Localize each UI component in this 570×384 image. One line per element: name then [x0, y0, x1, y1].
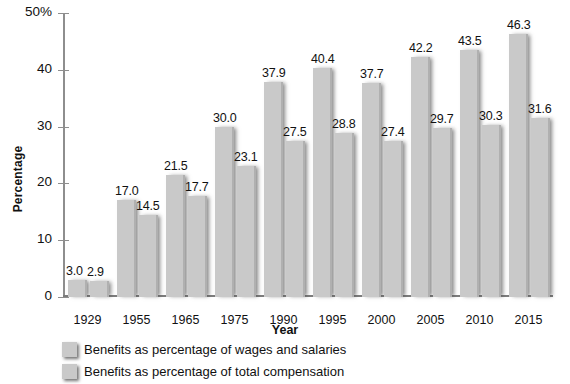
- bar-chart: Percentage Year 01020304050% 3.02.919291…: [0, 0, 570, 384]
- bar-group: 37.727.4: [362, 13, 403, 297]
- bar-value-label: 17.7: [185, 180, 209, 194]
- bar-value-label: 29.7: [430, 112, 454, 126]
- bar-value-label: 21.5: [164, 159, 188, 173]
- bar-value-label: 43.5: [458, 34, 482, 48]
- bar-group: 30.023.1: [215, 13, 256, 297]
- bar-2000-series-2[interactable]: [384, 141, 403, 297]
- legend-label-series-1: Benefits as percentage of wages and sala…: [84, 342, 346, 357]
- bar-value-label: 42.2: [409, 41, 433, 55]
- bar-group: 42.229.7: [411, 13, 452, 297]
- bar-value-label: 30.3: [479, 109, 503, 123]
- bar-2010-series-1[interactable]: [460, 50, 479, 297]
- bar-2005-series-2[interactable]: [433, 128, 452, 297]
- bar-1965-series-2[interactable]: [188, 196, 207, 297]
- bar-value-label: 27.4: [381, 125, 405, 139]
- legend-item: Benefits as percentage of total compensa…: [62, 360, 346, 382]
- bar-group: 40.428.8: [313, 13, 354, 297]
- y-tick-label: 30: [37, 118, 52, 133]
- bar-group: 3.02.9: [68, 13, 109, 297]
- bar-value-label: 27.5: [283, 125, 307, 139]
- y-tick-label: 50%: [25, 4, 52, 19]
- bar-1990-series-1[interactable]: [264, 82, 283, 297]
- legend-swatch-series-1: [62, 342, 77, 357]
- y-tick-label: 0: [44, 288, 52, 303]
- legend-swatch-series-2: [62, 364, 77, 379]
- y-tick: [58, 297, 69, 298]
- bar-value-label: 23.1: [234, 150, 258, 164]
- bar-value-label: 28.8: [332, 117, 356, 131]
- bar-value-label: 40.4: [311, 52, 335, 66]
- bar-value-label: 46.3: [507, 18, 531, 32]
- bar-1995-series-2[interactable]: [335, 133, 354, 297]
- bar-1990-series-2[interactable]: [286, 141, 305, 297]
- bar-1975-series-1[interactable]: [215, 127, 234, 297]
- bar-value-label: 3.0: [66, 264, 83, 278]
- bar-group: 43.530.3: [460, 13, 501, 297]
- bar-1929-series-2[interactable]: [90, 281, 109, 297]
- bar-value-label: 17.0: [115, 184, 139, 198]
- bar-2000-series-1[interactable]: [362, 83, 381, 297]
- y-axis-title: Percentage: [11, 124, 25, 234]
- y-tick-label: 20: [37, 174, 52, 189]
- y-tick-label: 40: [37, 61, 52, 76]
- bar-value-label: 31.6: [528, 102, 552, 116]
- bar-group: 17.014.5: [117, 13, 158, 297]
- x-tick-label: 2015: [498, 313, 559, 327]
- legend-label-series-2: Benefits as percentage of total compensa…: [84, 364, 344, 379]
- bar-2015-series-1[interactable]: [509, 34, 528, 297]
- bar-1975-series-2[interactable]: [237, 166, 256, 297]
- bar-group: 46.331.6: [509, 13, 550, 297]
- bar-group: 37.927.5: [264, 13, 305, 297]
- legend-item: Benefits as percentage of wages and sala…: [62, 338, 346, 360]
- bar-group: 21.517.7: [166, 13, 207, 297]
- bar-value-label: 14.5: [136, 199, 160, 213]
- bar-1929-series-1[interactable]: [68, 280, 87, 297]
- bar-value-label: 30.0: [213, 111, 237, 125]
- bar-1955-series-1[interactable]: [117, 200, 136, 297]
- bar-1965-series-1[interactable]: [166, 175, 185, 297]
- bar-2010-series-2[interactable]: [482, 125, 501, 297]
- plot-area: 3.02.9192917.014.5195521.517.7196530.023…: [63, 13, 553, 297]
- bar-2005-series-1[interactable]: [411, 57, 430, 297]
- bar-2015-series-2[interactable]: [531, 118, 550, 297]
- y-tick-label: 10: [37, 231, 52, 246]
- chart-legend: Benefits as percentage of wages and sala…: [62, 338, 346, 382]
- bar-1995-series-1[interactable]: [313, 68, 332, 297]
- bar-value-label: 37.7: [360, 67, 384, 81]
- bar-1955-series-2[interactable]: [139, 215, 158, 297]
- bar-value-label: 2.9: [87, 265, 104, 279]
- bar-value-label: 37.9: [262, 66, 286, 80]
